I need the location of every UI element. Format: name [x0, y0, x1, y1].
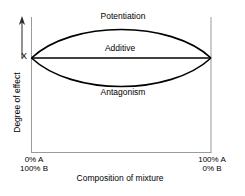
x-tick-right-line1: 100% A — [183, 155, 241, 164]
x-tick-left-line2: 100% B — [4, 164, 64, 173]
x-axis-tick-right: 100% A 0% B — [183, 155, 241, 173]
curve-antagonism — [32, 58, 212, 87]
curve-label-antagonism: Antagonism — [78, 88, 168, 97]
synergy-curve-figure: Potentiation Additive Antagonism X Degre… — [0, 0, 245, 196]
x-axis-title: Composition of mixture — [60, 174, 180, 183]
x-tick-left-line1: 0% A — [4, 155, 64, 164]
x-tick-right-line2: 0% B — [183, 164, 241, 173]
curve-label-potentiation: Potentiation — [78, 12, 168, 21]
curve-label-additive: Additive — [80, 44, 160, 53]
y-axis-title: Degree of effect — [13, 53, 22, 153]
x-axis-tick-left: 0% A 100% B — [4, 155, 64, 173]
